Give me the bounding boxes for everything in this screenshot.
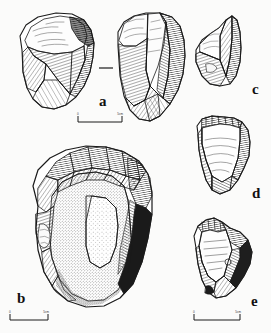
specimen-label-d: d [252,186,260,201]
scale-bar-e-end-label: 5cm [235,310,241,314]
lithic-illustration-svg: 0 5cm 0 5cm 0 5cm [0,0,271,333]
scale-bar-a-end-label: 5cm [117,112,123,116]
scale-bar-b-end-label: 5cm [43,310,49,314]
specimen-label-c: c [252,82,259,97]
specimen-label-b: b [17,291,25,306]
specimen-label-e: e [251,294,258,309]
figure-plate: 0 5cm 0 5cm 0 5cm a b c d e [0,0,271,333]
specimen-label-a: a [99,94,107,109]
